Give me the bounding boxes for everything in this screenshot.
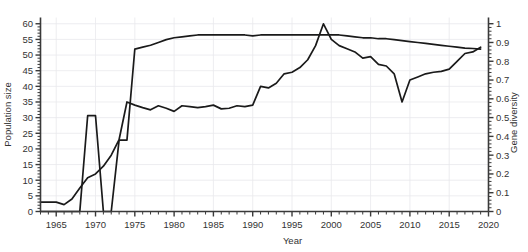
x-axis-tick-label: 1965 [46,219,67,230]
y-axis-right-title: Gene diversity [508,92,519,153]
y-axis-right-tick-label: 0.1 [496,187,509,198]
y-axis-left-tick-label: 25 [22,128,33,139]
y-axis-right-tick-label: 0.8 [496,56,509,67]
y-axis-left-tick-label: 60 [22,18,33,29]
y-axis-left-tick-label: 55 [22,34,33,45]
chart-screenshot: 051015202530354045505560Population size0… [0,0,528,252]
y-axis-left-tick-label: 50 [22,49,33,60]
y-axis-left-tick-label: 5 [28,190,33,201]
x-axis-tick-label: 2015 [439,219,460,230]
y-axis-left-tick-label: 20 [22,143,33,154]
y-axis-left-tick-label: 0 [28,206,33,217]
y-axis-left-tick-label: 35 [22,96,33,107]
x-axis-tick-label: 1995 [281,219,302,230]
x-axis-tick-label: 2020 [478,219,499,230]
y-axis-right-tick-label: 0 [496,206,501,217]
x-axis-tick-label: 2000 [321,219,342,230]
x-axis-tick-label: 2010 [399,219,420,230]
x-axis-tick-label: 1985 [203,219,224,230]
y-axis-left-tick-label: 45 [22,65,33,76]
x-axis-title: Year [283,235,302,246]
y-axis-right-tick-label: 0.2 [496,168,509,179]
y-axis-right-tick-label: 1 [496,18,501,29]
x-axis-tick-label: 1975 [124,219,145,230]
x-axis-tick-label: 2005 [360,219,381,230]
plot-area-background [41,18,489,212]
x-axis-tick-label: 1970 [85,219,106,230]
y-axis-left-title: Population size [2,82,13,146]
y-axis-left-tick-label: 10 [22,175,33,186]
y-axis-right-tick-label: 0.7 [496,74,509,85]
x-axis-tick-label: 1990 [242,219,263,230]
y-axis-left-tick-label: 30 [22,112,33,123]
x-axis-tick-label: 1980 [164,219,185,230]
y-axis-right-tick-label: 0.9 [496,37,509,48]
y-axis-left-tick-label: 15 [22,159,33,170]
y-axis-left-tick-label: 40 [22,81,33,92]
chart-plot: 051015202530354045505560Population size0… [0,0,528,252]
